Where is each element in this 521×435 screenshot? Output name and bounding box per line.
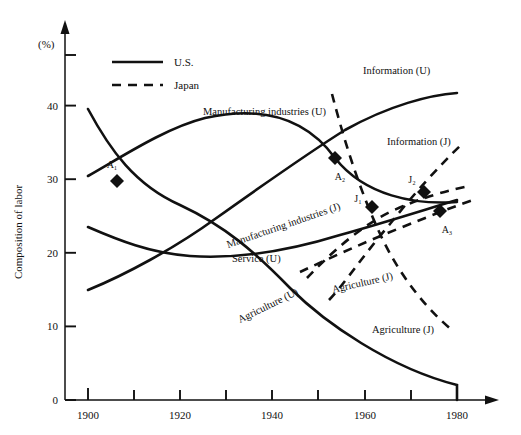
curve-manufacturing-us	[88, 113, 457, 202]
y-tick-label-40: 40	[47, 100, 59, 112]
y-tick-label-30: 30	[47, 173, 59, 185]
marker-label-a1: A₁	[107, 159, 118, 170]
y-tick-label-10: 10	[47, 320, 59, 332]
y-tick-label-20: 20	[47, 247, 59, 259]
x-ticks-group	[88, 388, 457, 400]
series-label-service-japan: Agriculture (J)	[331, 270, 395, 296]
y-ticks-group	[65, 55, 76, 400]
x-axis-arrow	[485, 396, 499, 405]
marker-label-a3: A₃	[442, 224, 453, 235]
y-tick-label-0: 0	[53, 394, 59, 406]
chart-svg: 0 10 20 30 40 (%) Composition of labor 1…	[0, 0, 521, 435]
y-axis-arrow	[61, 20, 70, 34]
x-tick-label-1900: 1900	[77, 409, 100, 421]
series-label-information-us: Information (U)	[363, 65, 431, 77]
y-axis-title: Composition of labor	[12, 185, 24, 279]
legend-label-japan: Japan	[174, 79, 200, 91]
x-tick-label-1980: 1980	[446, 409, 469, 421]
marker-label-a2: A₂	[335, 171, 346, 182]
legend-label-us: U.S.	[174, 56, 194, 68]
series-label-manufacturing-us: Manufacturing industries (U)	[203, 106, 327, 118]
curve-information-japan	[329, 146, 460, 300]
series-label-manufacturing-japan: Manufacturing industries (J)	[225, 200, 342, 250]
x-tick-labels-group: 1900 1920 1940 1960 1980	[77, 409, 469, 421]
series-label-information-japan: Information (J)	[387, 136, 451, 148]
agriculture-japan-label: Agriculture (J)	[372, 324, 435, 336]
x-tick-label-1960: 1960	[354, 409, 377, 421]
x-tick-label-1920: 1920	[169, 409, 192, 421]
x-tick-label-1940: 1940	[261, 409, 284, 421]
y-tick-labels-group: 0 10 20 30 40	[47, 100, 59, 406]
y-axis-unit-label: (%)	[38, 38, 55, 51]
marker-label-j2: J₂	[408, 174, 415, 185]
axes-group	[61, 20, 500, 405]
chart-figure: 0 10 20 30 40 (%) Composition of labor 1…	[0, 0, 521, 435]
series-label-service-us: Service (U)	[232, 253, 281, 265]
marker-label-j1: J₁	[354, 193, 361, 204]
legend: U.S. Japan	[112, 56, 200, 91]
series-label-agriculture-us: Agriculture (U)	[236, 286, 301, 326]
marker-a1	[110, 174, 124, 188]
